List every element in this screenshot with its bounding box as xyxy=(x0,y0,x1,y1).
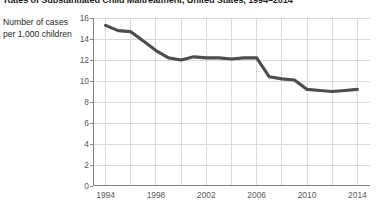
y-axis-title-line-2: per 1,000 children xyxy=(3,29,75,41)
x-tick-label: 2010 xyxy=(298,190,317,200)
y-tick-label: 10 xyxy=(80,76,89,86)
y-tick-label: 4 xyxy=(84,139,89,149)
x-tick-label: 1998 xyxy=(147,190,166,200)
data-line-series xyxy=(93,18,370,186)
y-axis-title: Number of cases per 1,000 children xyxy=(3,17,75,40)
chart-figure: Rates of Substantiated Child Maltreatmen… xyxy=(0,0,381,210)
y-axis-title-line-1: Number of cases xyxy=(3,17,75,29)
y-tick-label: 8 xyxy=(84,97,89,107)
y-tick-label: 6 xyxy=(84,118,89,128)
chart-title: Rates of Substantiated Child Maltreatmen… xyxy=(4,0,378,6)
x-tick-label: 2002 xyxy=(197,190,216,200)
plot-area: 0246810121416 199419982002200620102014 xyxy=(93,18,370,186)
y-tick-label: 0 xyxy=(84,181,89,191)
x-tick-label: 1994 xyxy=(96,190,115,200)
y-tick-label: 2 xyxy=(84,160,89,170)
y-tick-label: 16 xyxy=(80,13,89,23)
x-tick-label: 2006 xyxy=(247,190,266,200)
x-tick-label: 2014 xyxy=(348,190,367,200)
y-tick-label: 12 xyxy=(80,55,89,65)
y-tick-label: 14 xyxy=(80,34,89,44)
